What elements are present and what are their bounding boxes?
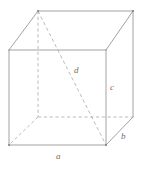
label-height-c: c xyxy=(110,83,114,92)
edge-receding-top-left xyxy=(9,11,38,50)
cuboid-drawing xyxy=(0,0,145,173)
vertex-front-bottom-left xyxy=(8,144,10,146)
geometry-figure: a b c d xyxy=(0,0,145,173)
label-depth-b: b xyxy=(121,132,126,141)
label-diagonal-d: d xyxy=(74,66,79,75)
edge-hidden-receding-bottom-left xyxy=(9,117,38,145)
vertex-back-top-right xyxy=(132,10,134,12)
vertex-back-top-left xyxy=(37,10,39,12)
label-length-a: a xyxy=(56,152,61,161)
edge-receding-top-right xyxy=(106,11,133,50)
space-diagonal-d xyxy=(38,11,106,145)
vertex-front-bottom-right xyxy=(105,144,107,146)
edge-receding-bottom-right xyxy=(106,117,133,145)
